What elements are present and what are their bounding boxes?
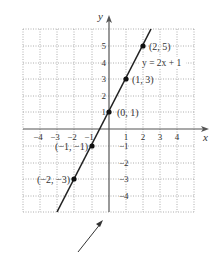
- svg-text:3: 3: [102, 74, 107, 84]
- graph: x y −4 −3 −2 −1 1 2 3 4 5 4 3 2 1 −1 −2 …: [0, 0, 224, 253]
- svg-text:−3: −3: [119, 174, 129, 184]
- y-axis-label: y: [97, 10, 103, 22]
- svg-text:2: 2: [102, 91, 107, 101]
- pointer-arrowhead-icon: [96, 220, 103, 227]
- point-2-5: [140, 43, 145, 48]
- svg-text:−4: −4: [33, 132, 43, 142]
- svg-text:2: 2: [141, 132, 146, 142]
- svg-text:3: 3: [158, 132, 163, 142]
- point-1-3: [123, 76, 128, 81]
- svg-text:1: 1: [102, 107, 107, 117]
- line-y-eq-2x-plus-1: [57, 29, 151, 212]
- label-point-1-3: (1, 3): [132, 74, 154, 86]
- label-point-0-1: (0, 1): [117, 107, 139, 119]
- svg-text:5: 5: [102, 41, 107, 51]
- label-point-neg2-neg3: (−2, −3): [37, 174, 70, 186]
- point-0-1: [106, 109, 111, 114]
- y-tick-labels: 5 4 3 2 1 −1 −2 −3 −4: [102, 41, 130, 201]
- svg-text:4: 4: [175, 132, 180, 142]
- svg-text:4: 4: [102, 58, 107, 68]
- pointer-arrow: [78, 223, 101, 252]
- label-point-neg1-neg1: (−1, −1): [55, 141, 88, 153]
- point-neg2-neg3: [71, 176, 76, 181]
- equation-label: y = 2x + 1: [142, 58, 181, 68]
- x-axis-label: x: [202, 131, 208, 143]
- point-neg1-neg1: [89, 143, 94, 148]
- svg-text:−2: −2: [119, 158, 129, 168]
- svg-text:−4: −4: [119, 191, 129, 201]
- label-point-2-5: (2, 5): [149, 41, 171, 53]
- svg-text:−1: −1: [119, 141, 129, 151]
